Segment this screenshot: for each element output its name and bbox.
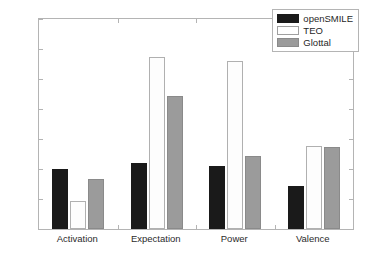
bar-group [118, 19, 197, 229]
bar [324, 147, 340, 230]
x-tick [118, 225, 119, 229]
bar-group [39, 19, 118, 229]
x-tick [196, 19, 197, 23]
legend-swatch-icon [277, 14, 299, 23]
bar [306, 146, 322, 229]
legend-item-Glottal: Glottal [277, 37, 353, 48]
bar [52, 169, 68, 229]
legend-label: openSMILE [303, 14, 353, 24]
x-tick-label: Expectation [117, 233, 196, 249]
bar [149, 57, 165, 229]
bar-chart-figure: 00.10.20.30.40.50.60.7 ActivationExpecta… [0, 0, 367, 267]
bar [70, 201, 86, 229]
legend-swatch-icon [277, 26, 299, 35]
y-tick [39, 229, 43, 230]
legend-label: Glottal [303, 38, 330, 48]
legend-item-TEO: TEO [277, 25, 353, 36]
bar [245, 156, 261, 230]
y-tick [39, 139, 43, 140]
bar [88, 179, 104, 229]
y-tick [39, 199, 43, 200]
bar [167, 96, 183, 230]
bar [227, 61, 243, 229]
y-tick [349, 109, 353, 110]
chart-legend: openSMILE TEO Glottal [272, 9, 359, 52]
x-tick [118, 19, 119, 23]
bar [209, 166, 225, 229]
bar [131, 163, 147, 229]
y-tick [349, 199, 353, 200]
y-tick [39, 49, 43, 50]
y-tick [39, 109, 43, 110]
bar [288, 186, 304, 230]
y-tick [349, 79, 353, 80]
x-tick-label: Activation [38, 233, 117, 249]
x-tick [196, 225, 197, 229]
y-tick [349, 229, 353, 230]
x-tick [275, 225, 276, 229]
x-axis-labels: ActivationExpectationPowerValence [38, 233, 352, 249]
legend-item-openSMILE: openSMILE [277, 13, 353, 24]
y-tick [349, 139, 353, 140]
legend-swatch-icon [277, 38, 299, 47]
y-tick [39, 79, 43, 80]
bar-group [196, 19, 275, 229]
y-tick [39, 19, 43, 20]
y-tick [349, 169, 353, 170]
y-tick [39, 169, 43, 170]
x-tick-label: Power [195, 233, 274, 249]
x-tick-label: Valence [274, 233, 353, 249]
legend-label: TEO [303, 26, 323, 36]
